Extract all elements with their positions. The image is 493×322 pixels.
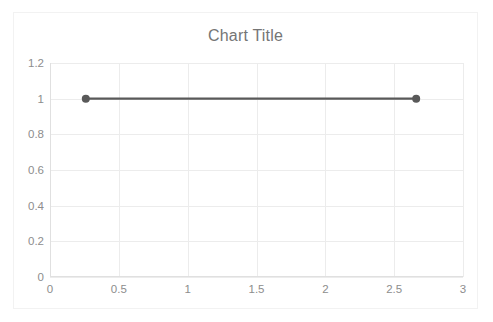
chart-title: Chart Title	[14, 27, 477, 45]
y-axis-tick-label: 0.4	[28, 200, 44, 212]
x-axis-tick-label: 1.5	[249, 283, 265, 295]
x-axis-tick-label: 0	[47, 283, 53, 295]
series-plot	[50, 63, 463, 277]
x-axis-tick-labels: 00.511.522.53	[50, 283, 463, 301]
x-axis-tick-label: 3	[460, 283, 466, 295]
y-axis-tick-label: 0.8	[28, 128, 44, 140]
y-axis-tick-label: 1	[38, 93, 44, 105]
y-axis-tick-label: 0	[38, 271, 44, 283]
x-axis-tick-label: 2.5	[386, 283, 402, 295]
y-axis-tick-label: 0.2	[28, 235, 44, 247]
x-axis-tick-label: 2	[322, 283, 328, 295]
y-axis-tick-labels: 00.20.40.60.811.2	[14, 63, 44, 277]
gridline-horizontal	[50, 277, 463, 278]
data-point-marker	[82, 95, 90, 103]
x-axis-tick-label: 0.5	[111, 283, 127, 295]
chart-card: Chart Title 00.20.40.60.811.2 00.511.522…	[13, 12, 478, 309]
gridline-vertical	[463, 63, 464, 277]
y-axis-tick-label: 1.2	[28, 57, 44, 69]
plot-area	[50, 63, 463, 277]
data-point-marker	[412, 95, 420, 103]
y-axis-tick-label: 0.6	[28, 164, 44, 176]
x-axis-tick-label: 1	[184, 283, 190, 295]
